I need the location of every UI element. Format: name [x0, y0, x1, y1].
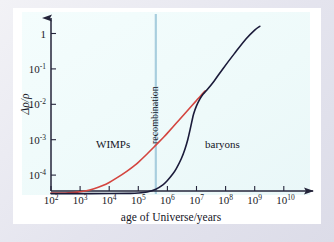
x-tick-exp-5: 7 [200, 193, 204, 202]
baryons-label: baryons [205, 138, 240, 150]
recombination-label: recombination [149, 86, 160, 144]
x-tick-label-4: 10 [160, 194, 172, 206]
y-tick-exp-2: -2 [40, 97, 46, 106]
x-tick-label-2: 10 [102, 194, 114, 206]
x-tick-label-6: 10 [218, 194, 230, 206]
svg-text:1: 1 [41, 28, 47, 40]
wimps-label: WIMPs [96, 138, 130, 150]
figure-container: recombination 102 [0, 0, 334, 242]
y-tick-exp-1: -1 [40, 62, 46, 71]
x-tick-exp-2: 4 [113, 193, 117, 202]
x-tick-exp-3: 5 [142, 193, 146, 202]
plot-area-background [22, 12, 310, 195]
x-tick-label-3: 10 [131, 194, 143, 206]
x-tick-label-0: 10 [44, 194, 56, 206]
x-tick-labels: 102 103 104 105 106 107 108 109 [44, 193, 295, 206]
y-tick-exp-3: -3 [40, 133, 46, 142]
x-tick-label-5: 10 [189, 194, 201, 206]
y-tick-label-0: 1 [41, 28, 47, 40]
y-tick-label-1: 10 [29, 63, 41, 75]
x-axis-title: age of Universe/years [121, 211, 222, 224]
y-tick-label-4: 10 [29, 169, 41, 181]
x-tick-exp-8: 10 [287, 193, 295, 202]
y-tick-exp-4: -4 [40, 168, 46, 177]
x-tick-exp-6: 8 [229, 193, 233, 202]
x-tick-label-7: 10 [247, 194, 259, 206]
y-tick-label-3: 10 [29, 134, 41, 146]
x-tick-label-1: 10 [73, 194, 85, 206]
x-tick-label-8: 10 [276, 194, 288, 206]
y-axis-title: Δρ/ρ [19, 93, 32, 115]
x-tick-exp-4: 6 [171, 193, 175, 202]
x-tick-exp-7: 9 [258, 193, 262, 202]
chart-canvas: recombination 102 [0, 0, 334, 242]
